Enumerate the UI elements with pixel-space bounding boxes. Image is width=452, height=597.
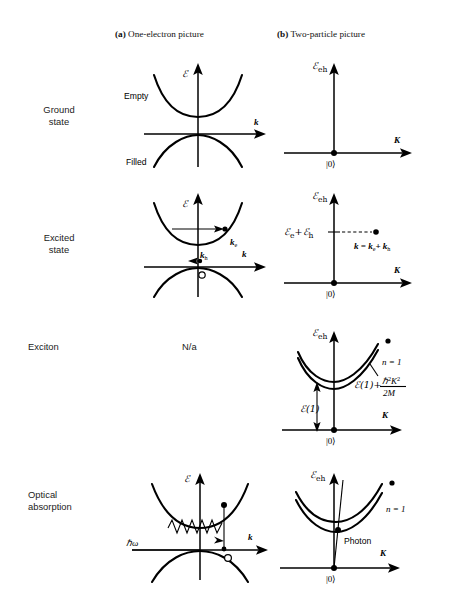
panel-b-optical-absorption: ℰeh K n = 1 Photon |0⟩ <box>288 460 452 590</box>
photon-dispersion-line <box>334 480 343 568</box>
axis-momentum-b-excited <box>284 278 412 288</box>
axis-label-wavevector-a-ground: k <box>254 117 259 127</box>
ground-state-dot <box>331 150 337 156</box>
axis-label-momentum-b-ground: K <box>393 135 401 145</box>
ground-state-dot <box>331 427 337 433</box>
axis-label-energy-b-ground: ℰeh <box>312 60 327 74</box>
row-label-optical-absorption: Optical absorption <box>28 489 108 512</box>
axis-momentum-b-ground <box>284 148 412 158</box>
hole-open-circle <box>225 555 232 562</box>
axis-energy-b-excited <box>329 193 339 283</box>
hole-open-circle <box>199 272 205 278</box>
axis-label-energy-b-excited: ℰeh <box>312 190 327 204</box>
panel-a-optical-absorption: ℰ k ℏω <box>128 460 298 590</box>
axis-momentum-b-exciton <box>282 425 402 435</box>
panel-b-exciton: ℰeh K n = 1 ℰ(1) ℰ(1)+ ℏ2K2 2M |0⟩ <box>290 318 452 453</box>
column-title-a: One-electron picture <box>128 29 204 39</box>
column-title-b: Two-particle picture <box>290 29 365 39</box>
figure-root: (a) One-electron picture (b) Two-particl… <box>0 0 452 597</box>
column-header-a: (a) One-electron picture <box>115 29 204 39</box>
panel-a-excited-state: ℰ k ke kh <box>130 185 290 305</box>
label-exciton-dispersion-formula: ℰ(1)+ ℏ2K2 2M <box>354 375 406 398</box>
svg-text:ℰ(1)+: ℰ(1)+ <box>354 379 382 390</box>
label-photon: Photon <box>344 536 371 546</box>
label-ket-zero-b-optical: |0⟩ <box>326 574 336 584</box>
axis-label-wavevector-a-excited: k <box>242 249 247 259</box>
column-tag-a: (a) <box>115 29 126 39</box>
exciton-band-n1-curve <box>296 493 382 532</box>
transition-base-dot <box>222 547 227 552</box>
axis-label-momentum-b-exciton: K <box>381 410 389 420</box>
axis-label-energy-a-ground: ℰ <box>182 68 189 79</box>
panel-a-ground-state: ℰ k Empty Filled <box>130 55 290 175</box>
axis-wavevector-a-ground <box>144 129 266 139</box>
label-total-momentum: k = ke+ kh <box>354 241 391 252</box>
label-filled-band: Filled <box>126 157 147 167</box>
axis-label-energy-b-optical: ℰeh <box>310 469 325 483</box>
row-label-excited-state: Excited state <box>28 232 90 255</box>
column-tag-b: (b) <box>277 29 288 39</box>
electron-dot <box>221 502 227 508</box>
svg-text:ℏ2K2: ℏ2K2 <box>382 375 400 386</box>
axis-wavevector-a-excited <box>144 262 266 272</box>
axis-momentum-b-optical <box>280 563 400 573</box>
axis-label-energy-a-optical: ℰ <box>184 473 191 484</box>
photon-absorption-dot <box>335 527 341 533</box>
photon-wavy-arrow <box>168 520 224 544</box>
axis-energy-b-optical <box>329 473 339 568</box>
axis-energy-b-ground <box>329 63 339 153</box>
label-ket-zero-b-exciton: |0⟩ <box>326 436 336 446</box>
label-binding-energy: ℰ(1) <box>300 403 320 414</box>
axis-label-energy-a-excited: ℰ <box>182 198 189 209</box>
label-ket-zero-b-ground: |0⟩ <box>326 159 336 169</box>
axis-label-momentum-b-excited: K <box>393 265 401 275</box>
free-pair-dot <box>389 480 394 485</box>
column-header-b: (b) Two-particle picture <box>277 29 365 39</box>
row-label-exciton: Exciton <box>28 341 108 353</box>
excited-state-dot <box>373 229 379 235</box>
label-quantum-number-n1: n = 1 <box>382 357 402 367</box>
axis-energy-b-exciton <box>329 331 339 430</box>
axis-energy-a-ground <box>193 63 203 167</box>
row-label-ground-state: Ground state <box>28 104 90 127</box>
svg-text:2M: 2M <box>383 388 396 398</box>
free-pair-dot <box>385 338 390 343</box>
panel-b-ground-state: ℰeh K |0⟩ <box>290 55 450 175</box>
axis-label-wavevector-a-optical: k <box>248 532 253 542</box>
electron-dot <box>222 226 227 231</box>
label-hole-wavevector: kh <box>200 250 209 261</box>
panel-b-excited-state: ℰeh K ℰe+ℰh k = ke+ kh |0⟩ <box>290 185 450 305</box>
label-quantum-number-n1: n = 1 <box>386 504 406 514</box>
label-ket-zero-b-excited: |0⟩ <box>326 289 336 299</box>
leader-line-dispersion <box>370 364 378 376</box>
cell-a-exciton-not-applicable: N/a <box>182 341 197 352</box>
ground-state-dot <box>331 280 337 286</box>
label-electron-wavevector: ke <box>230 237 238 248</box>
axis-label-energy-b-exciton: ℰeh <box>312 327 327 341</box>
label-empty-band: Empty <box>124 91 149 101</box>
axis-label-momentum-b-optical: K <box>379 548 387 558</box>
label-photon-energy: ℏω <box>126 538 138 548</box>
